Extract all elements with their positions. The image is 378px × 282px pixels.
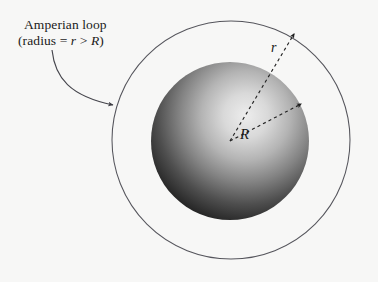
- caption-line-radius-condition: (radius = r > R): [18, 32, 104, 49]
- caption-operator: >: [76, 33, 91, 48]
- caption-line-amperian-loop: Amperian loop: [24, 16, 107, 33]
- amperian-loop-diagram: Amperian loop (radius = r > R) r R: [0, 0, 378, 282]
- caption-leader-line: [52, 50, 113, 105]
- caption-var-R: R: [91, 33, 99, 48]
- caption-radius-suffix: ): [99, 33, 104, 48]
- label-sphere-radius-R: R: [240, 126, 249, 143]
- label-outer-radius-r: r: [271, 40, 276, 56]
- caption-radius-prefix: (radius =: [18, 33, 71, 48]
